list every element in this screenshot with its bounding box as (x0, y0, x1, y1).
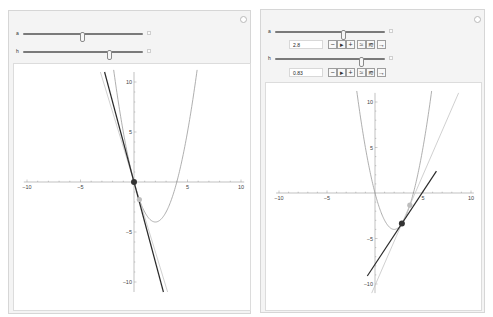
faster-button[interactable]: ≈ (357, 40, 366, 49)
close-icon[interactable] (474, 16, 481, 23)
y-tick-label: −5 (367, 236, 373, 242)
slider-row-h: h (16, 47, 156, 57)
x-tick-label: −10 (22, 184, 31, 190)
increment-button[interactable]: + (346, 40, 355, 49)
play-button[interactable]: ▸ (337, 40, 346, 49)
slider-label-a: a (268, 28, 271, 34)
slider-row-h: h (268, 54, 398, 64)
direction-button[interactable]: → (377, 40, 386, 49)
slider-a-thumb[interactable] (80, 32, 85, 42)
collapse-controls-a-icon[interactable] (389, 29, 393, 33)
increment-button[interactable]: + (346, 68, 355, 77)
y-tick-label: 10 (367, 99, 373, 105)
x-tick-label: 10 (238, 184, 244, 190)
x-tick-label: −5 (324, 195, 330, 201)
parabola-curve (114, 70, 197, 222)
x-tick-label: 5 (186, 184, 189, 190)
slider-a-track[interactable] (275, 31, 385, 33)
manipulate-panel-left: a h −10−5510105−5−10 (8, 10, 251, 314)
h-value-field[interactable]: 0.83 (289, 68, 323, 77)
slider-row-a: a (268, 27, 398, 37)
manipulate-panel-right: a 2.8 − ▸ + ≈ ≋ → h 0.83 − ▸ + ≈ ≋ → −10… (260, 9, 485, 313)
play-button[interactable]: ▸ (337, 68, 346, 77)
secant-point[interactable] (407, 203, 412, 208)
plot-area-right: −10−5510105−5−10 (265, 82, 482, 311)
tangent-point[interactable] (399, 221, 405, 227)
slider-h-track[interactable] (275, 58, 385, 60)
decrement-button[interactable]: − (328, 68, 337, 77)
secant-point[interactable] (137, 197, 142, 202)
y-tick-label: 5 (129, 129, 132, 135)
decrement-button[interactable]: − (328, 40, 337, 49)
collapse-controls-h-icon[interactable] (389, 56, 393, 60)
x-tick-label: −5 (77, 184, 83, 190)
slider-a-track[interactable] (23, 33, 143, 35)
y-tick-label: 5 (370, 145, 373, 151)
plot-area-left: −10−5510105−5−10 (13, 63, 251, 311)
slider-h-track[interactable] (23, 51, 143, 53)
expand-controls-h-icon[interactable] (147, 49, 151, 53)
slower-button[interactable]: ≋ (366, 68, 375, 77)
slider-label-h: h (16, 48, 19, 54)
slider-label-a: a (16, 30, 19, 36)
y-tick-label: 10 (126, 79, 132, 85)
slider-row-a: a (16, 29, 156, 39)
close-icon[interactable] (240, 16, 247, 23)
y-tick-label: −5 (126, 229, 132, 235)
direction-button[interactable]: → (377, 68, 386, 77)
slider-h-thumb[interactable] (107, 50, 112, 60)
graph-right: −10−5510105−5−10 (266, 83, 481, 310)
slider-a-thumb[interactable] (341, 30, 346, 40)
x-tick-label: 5 (421, 195, 424, 201)
faster-button[interactable]: ≈ (357, 68, 366, 77)
y-tick-label: −10 (364, 281, 373, 287)
slower-button[interactable]: ≋ (366, 40, 375, 49)
slider-h-thumb[interactable] (359, 57, 364, 67)
tangent-point[interactable] (131, 179, 137, 185)
parabola-curve (357, 91, 432, 229)
x-tick-label: −10 (274, 195, 283, 201)
slider-label-h: h (268, 55, 271, 61)
graph-left: −10−5510105−5−10 (14, 64, 250, 310)
y-tick-label: −10 (123, 279, 132, 285)
x-tick-label: 10 (468, 195, 474, 201)
a-value-field[interactable]: 2.8 (289, 40, 323, 49)
expand-controls-a-icon[interactable] (147, 31, 151, 35)
